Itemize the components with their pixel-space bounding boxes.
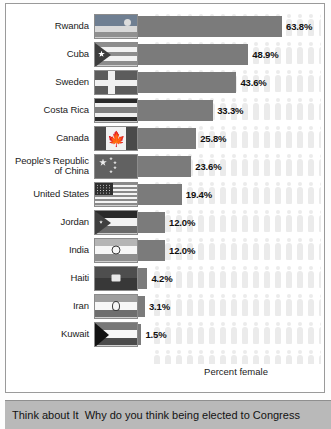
bar-zone: 23.6% <box>138 152 324 180</box>
rwanda-flag <box>94 14 138 39</box>
person-silhouette-icon <box>173 348 184 364</box>
country-label: Costa Rica <box>6 105 94 116</box>
india-flag <box>94 238 138 263</box>
value-bar <box>138 44 248 65</box>
country-label-line2: of China <box>54 165 89 176</box>
value-label: 12.0% <box>169 245 195 256</box>
person-silhouette-icon <box>162 348 173 364</box>
person-silhouette-icon <box>151 348 162 364</box>
value-bar <box>138 324 141 345</box>
value-bar <box>138 100 213 121</box>
chart-row: Iran3.1% <box>6 292 324 320</box>
country-label: People's Republicof China <box>6 156 94 177</box>
value-bar <box>138 268 147 289</box>
chart-row: India12.0% <box>6 236 324 264</box>
bar-zone: 1.5% <box>138 320 324 348</box>
person-silhouette-icon <box>239 348 250 364</box>
chart-panel: Rwanda63.8%Cuba48.9%Sweden43.6%Costa Ric… <box>5 3 325 393</box>
country-label: Haiti <box>6 273 94 284</box>
think-about-it-question: Why do you think being elected to Congre… <box>85 409 300 421</box>
bar-zone: 4.2% <box>138 264 324 292</box>
bar-zone: 25.8% <box>138 124 324 152</box>
bar-zone: 48.9% <box>138 40 324 68</box>
person-silhouette-icon <box>316 348 321 364</box>
country-label: Cuba <box>6 49 94 60</box>
value-bar <box>138 128 196 149</box>
person-silhouette-icon <box>272 348 283 364</box>
bar-zone: 19.4% <box>138 180 324 208</box>
country-label: Canada <box>6 133 94 144</box>
person-silhouette-icon <box>283 348 294 364</box>
value-label: 25.8% <box>200 133 226 144</box>
bar-zone: 63.8% <box>138 12 324 40</box>
chart-rows: Rwanda63.8%Cuba48.9%Sweden43.6%Costa Ric… <box>6 12 324 348</box>
value-label: 23.6% <box>195 161 221 172</box>
country-label: United States <box>6 189 94 200</box>
person-silhouette-icon <box>261 348 272 364</box>
value-label: 48.9% <box>252 49 278 60</box>
chart-row: United States19.4% <box>6 180 324 208</box>
think-about-it-banner: Think about It Why do you think being el… <box>5 400 331 429</box>
costa-rica-flag <box>94 98 138 123</box>
country-label: Kuwait <box>6 329 94 340</box>
value-label: 63.8% <box>286 21 312 32</box>
bar-zone: 33.3% <box>138 96 324 124</box>
value-bar <box>138 184 182 205</box>
cuba-flag <box>94 42 138 67</box>
iran-flag <box>94 294 138 319</box>
person-silhouette-icon <box>217 348 228 364</box>
kuwait-flag <box>94 322 138 347</box>
sweden-flag <box>94 70 138 95</box>
haiti-flag <box>94 266 138 291</box>
chart-row: Rwanda63.8% <box>6 12 324 40</box>
bar-zone: 3.1% <box>138 292 324 320</box>
person-silhouette-icon <box>294 348 305 364</box>
person-silhouette-icon <box>206 348 217 364</box>
value-bar <box>138 156 191 177</box>
value-bar <box>138 16 282 37</box>
chart-row: Cuba48.9% <box>6 40 324 68</box>
value-label: 12.0% <box>169 217 195 228</box>
canada-flag: 🍁 <box>94 126 138 151</box>
chart-row: Sweden43.6% <box>6 68 324 96</box>
bar-zone: 12.0% <box>138 236 324 264</box>
united-states-flag <box>94 182 138 207</box>
person-silhouette-icon <box>305 348 316 364</box>
country-label: Rwanda <box>6 21 94 32</box>
country-label-line1: People's Republic <box>15 155 89 166</box>
silhouette-row <box>151 348 321 364</box>
chart-row: Jordan12.0% <box>6 208 324 236</box>
country-label: Jordan <box>6 217 94 228</box>
chart-row: Costa Rica33.3% <box>6 96 324 124</box>
country-label: Sweden <box>6 77 94 88</box>
value-bar <box>138 240 165 261</box>
value-label: 4.2% <box>151 273 172 284</box>
chart-row: Kuwait1.5% <box>6 320 324 348</box>
person-silhouette-icon <box>228 348 239 364</box>
value-label: 3.1% <box>149 301 170 312</box>
person-silhouette-icon <box>250 348 261 364</box>
chart-row: People's Republicof China23.6% <box>6 152 324 180</box>
country-label: Iran <box>6 301 94 312</box>
value-bar <box>138 72 236 93</box>
think-about-it-label: Think about It <box>12 409 79 421</box>
value-label: 1.5% <box>145 329 166 340</box>
bar-zone: 43.6% <box>138 68 324 96</box>
value-label: 33.3% <box>217 105 243 116</box>
bar-zone: 12.0% <box>138 208 324 236</box>
figure-container: Rwanda63.8%Cuba48.9%Sweden43.6%Costa Ric… <box>0 0 331 429</box>
chart-row: Canada🍁25.8% <box>6 124 324 152</box>
value-bar <box>138 212 165 233</box>
value-bar <box>138 296 145 317</box>
china-flag <box>94 154 138 179</box>
value-label: 43.6% <box>240 77 266 88</box>
x-axis-label: Percent female <box>151 366 321 377</box>
value-label: 19.4% <box>186 189 212 200</box>
jordan-flag <box>94 210 138 235</box>
country-label: India <box>6 245 94 256</box>
person-silhouette-icon <box>184 348 195 364</box>
chart-row: Haiti4.2% <box>6 264 324 292</box>
person-silhouette-icon <box>195 348 206 364</box>
